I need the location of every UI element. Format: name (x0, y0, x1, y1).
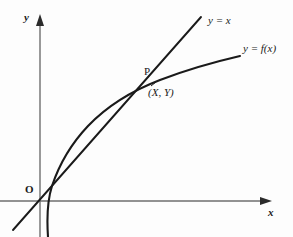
x-axis-arrow-icon (260, 197, 272, 205)
function-curve-label: y = f(x) (243, 43, 276, 54)
fixed-point-diagram: y x O y = x y = f(x) P (X, Y) (0, 0, 293, 237)
identity-line-label: y = x (208, 15, 231, 26)
intersection-point-label: P (144, 66, 150, 77)
intersection-coordinates-label: (X, Y) (148, 87, 174, 98)
x-axis-label: x (268, 207, 274, 218)
origin-label: O (25, 184, 34, 195)
y-axis-arrow-icon (36, 14, 44, 26)
identity-line (13, 17, 201, 230)
y-axis-label: y (24, 12, 29, 23)
diagram-canvas (0, 0, 293, 237)
